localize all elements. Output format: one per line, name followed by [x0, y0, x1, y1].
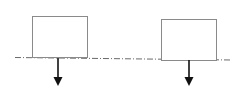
left-force-arrow-icon — [54, 58, 63, 86]
right-block — [162, 20, 217, 61]
left-block — [33, 17, 88, 58]
right-force-arrow-icon — [185, 60, 194, 86]
diagram-canvas — [0, 0, 245, 96]
